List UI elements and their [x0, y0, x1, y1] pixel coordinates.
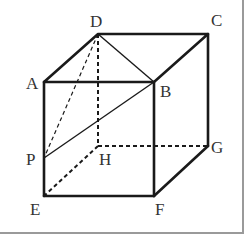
vertex-label-H: H: [99, 150, 111, 169]
vertex-label-C: C: [211, 11, 222, 30]
vertex-label-B: B: [160, 82, 171, 101]
edge-HE: [44, 146, 98, 196]
segment-DB: [98, 34, 154, 82]
edge-FG: [154, 146, 208, 196]
figure-frame: D C A B P H G E F: [0, 0, 248, 235]
vertex-label-G: G: [211, 138, 223, 157]
vertex-label-D: D: [90, 12, 102, 31]
cube-diagram: D C A B P H G E F: [0, 0, 248, 235]
vertex-label-P: P: [26, 150, 35, 169]
vertex-label-A: A: [26, 74, 39, 93]
vertex-label-E: E: [30, 200, 40, 219]
vertex-label-F: F: [155, 200, 164, 219]
